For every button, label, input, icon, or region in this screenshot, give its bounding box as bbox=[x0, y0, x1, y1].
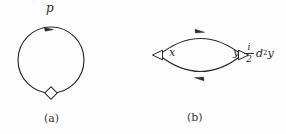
momentum-arrowhead-a bbox=[45, 28, 54, 31]
vertex-factor-expression: i 2 d 2 y bbox=[244, 43, 274, 64]
loop-circle-a bbox=[18, 27, 84, 93]
vertex-label-y: y bbox=[233, 47, 239, 58]
momentum-label-p: p bbox=[46, 2, 54, 14]
vertex-triangle-left bbox=[153, 50, 163, 60]
diagram-panel-b: x y i 2 d 2 y (b) bbox=[143, 0, 286, 134]
arrowhead-top-right bbox=[195, 29, 205, 33]
arrowhead-bottom-left bbox=[195, 77, 205, 81]
operator-d: d bbox=[256, 48, 263, 59]
fraction-denominator: 2 bbox=[244, 54, 254, 64]
field-y: y bbox=[268, 48, 274, 59]
vertex-label-x: x bbox=[169, 47, 175, 58]
diagram-panel-a: p (a) bbox=[0, 0, 143, 134]
fraction-i-over-2: i 2 bbox=[244, 43, 254, 64]
figure-root: p (a) x y bbox=[0, 0, 286, 134]
diagram-b-graphics bbox=[143, 0, 286, 134]
panel-caption-a: (a) bbox=[44, 113, 59, 124]
fraction-numerator: i bbox=[246, 43, 253, 53]
panel-caption-b: (b) bbox=[187, 112, 203, 123]
diagram-a-graphics bbox=[0, 0, 143, 134]
vertex-diamond-a bbox=[45, 87, 57, 99]
